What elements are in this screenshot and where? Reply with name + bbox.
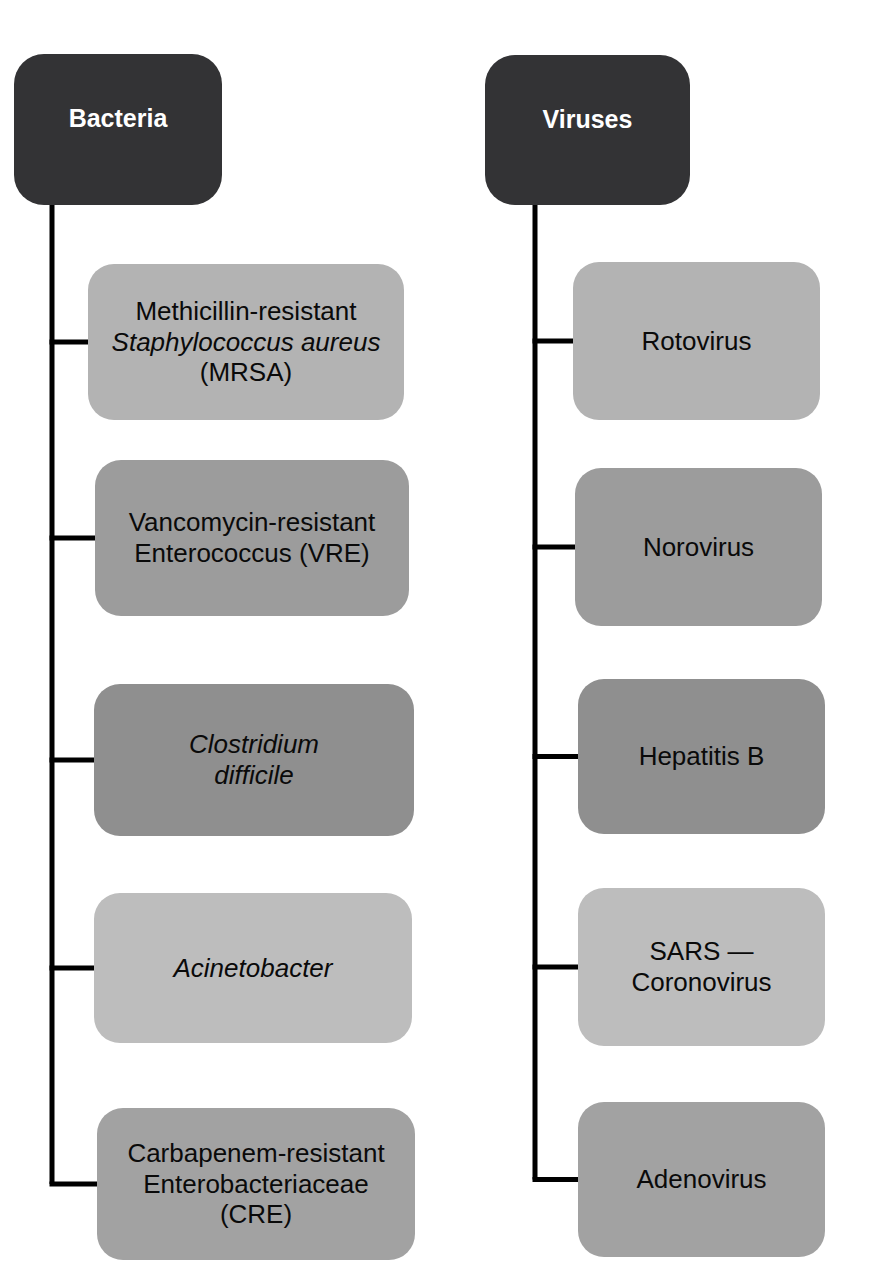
leaf-node-rotovirus[interactable]: Rotovirus xyxy=(573,262,820,420)
leaf-node-adenovirus[interactable]: Adenovirus xyxy=(578,1102,825,1257)
leaf-node-text-line: Staphylococcus aureus xyxy=(98,327,394,358)
leaf-node-label: Rotovirus xyxy=(573,326,820,357)
leaf-node-text-line: Enterobacteriaceae xyxy=(107,1169,405,1200)
leaf-node-mrsa[interactable]: Methicillin-resistantStaphylococcus aure… xyxy=(88,264,404,420)
leaf-node-text-line: (MRSA) xyxy=(98,357,394,388)
leaf-node-norovirus[interactable]: Norovirus xyxy=(575,468,822,626)
leaf-node-text-line: difficile xyxy=(104,760,404,791)
leaf-node-text-line: Acinetobacter xyxy=(104,953,402,984)
leaf-node-text-line: Coronovirus xyxy=(588,967,815,998)
leaf-node-label: Methicillin-resistantStaphylococcus aure… xyxy=(88,296,404,388)
leaf-node-label: SARS —Coronovirus xyxy=(578,936,825,997)
leaf-node-sars-coronovirus[interactable]: SARS —Coronovirus xyxy=(578,888,825,1046)
leaf-node-text-line: Adenovirus xyxy=(588,1164,815,1195)
leaf-node-text-line: Methicillin-resistant xyxy=(98,296,394,327)
leaf-node-text-line: Rotovirus xyxy=(583,326,810,357)
leaf-node-acinetobacter[interactable]: Acinetobacter xyxy=(94,893,412,1043)
leaf-node-text-line: Vancomycin-resistant xyxy=(105,507,399,538)
leaf-node-label: Acinetobacter xyxy=(94,953,412,984)
leaf-node-text-line: SARS — xyxy=(588,936,815,967)
root-node-label: Bacteria xyxy=(14,54,222,134)
leaf-node-text-line: Norovirus xyxy=(585,532,812,563)
root-node-bacteria[interactable]: Bacteria xyxy=(14,54,222,205)
root-node-label: Viruses xyxy=(485,55,690,135)
leaf-node-text-line: (CRE) xyxy=(107,1199,405,1230)
root-node-viruses[interactable]: Viruses xyxy=(485,55,690,205)
pathogen-classification-diagram: BacteriaMethicillin-resistantStaphylococ… xyxy=(0,0,877,1278)
leaf-node-cdiff[interactable]: Clostridiumdifficile xyxy=(94,684,414,836)
leaf-node-vre[interactable]: Vancomycin-resistantEnterococcus (VRE) xyxy=(95,460,409,616)
leaf-node-label: Carbapenem-resistantEnterobacteriaceae(C… xyxy=(97,1138,415,1230)
leaf-node-label: Adenovirus xyxy=(578,1164,825,1195)
leaf-node-label: Hepatitis B xyxy=(578,741,825,772)
leaf-node-text-line: Clostridium xyxy=(104,729,404,760)
leaf-node-text-line: Enterococcus (VRE) xyxy=(105,538,399,569)
leaf-node-label: Vancomycin-resistantEnterococcus (VRE) xyxy=(95,507,409,568)
leaf-node-text-line: Hepatitis B xyxy=(588,741,815,772)
leaf-node-label: Clostridiumdifficile xyxy=(94,729,414,790)
leaf-node-cre[interactable]: Carbapenem-resistantEnterobacteriaceae(C… xyxy=(97,1108,415,1260)
leaf-node-text-line: Carbapenem-resistant xyxy=(107,1138,405,1169)
leaf-node-label: Norovirus xyxy=(575,532,822,563)
leaf-node-hepatitis-b[interactable]: Hepatitis B xyxy=(578,679,825,834)
